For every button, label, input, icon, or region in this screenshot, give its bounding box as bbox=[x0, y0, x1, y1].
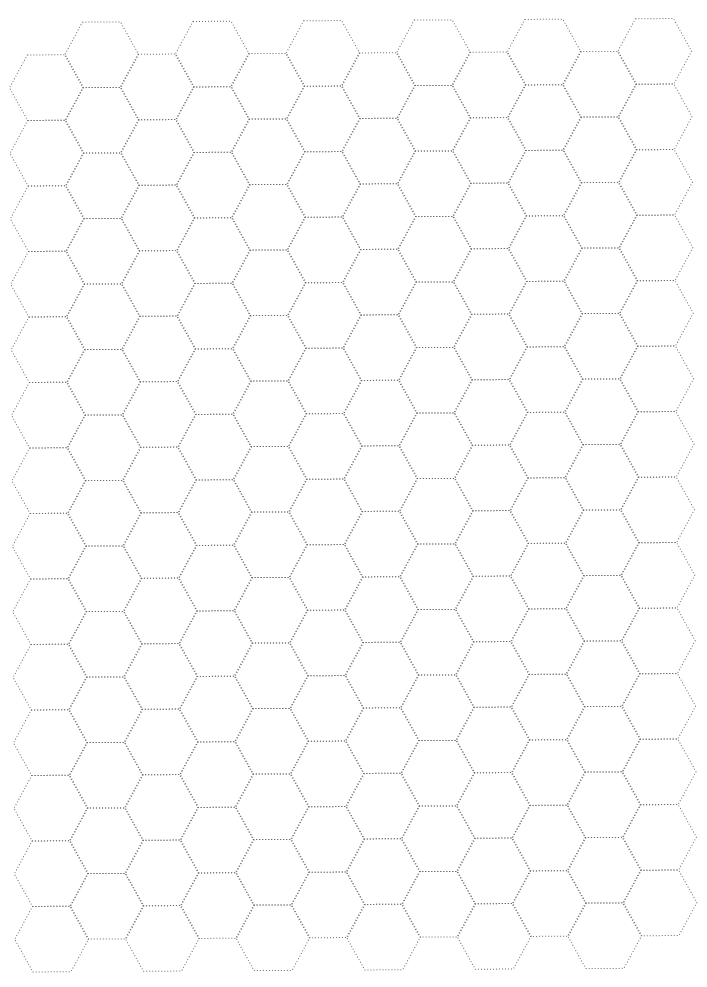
hex-cell bbox=[235, 774, 309, 840]
hex-cell bbox=[176, 218, 250, 284]
hex-cell bbox=[509, 347, 583, 413]
hex-cell bbox=[512, 805, 586, 871]
hex-cell bbox=[346, 773, 420, 839]
hex-cell bbox=[234, 643, 308, 709]
hex-cell bbox=[287, 282, 361, 348]
hex-cell bbox=[177, 414, 251, 480]
hex-cell bbox=[344, 577, 418, 643]
hex-cell bbox=[288, 348, 362, 414]
hex-cell bbox=[508, 281, 582, 347]
hex-cell bbox=[286, 151, 360, 217]
hex-cell bbox=[397, 216, 471, 282]
hex-cell bbox=[341, 53, 415, 119]
hex-cell bbox=[453, 183, 527, 249]
hex-cell bbox=[236, 905, 310, 971]
hex-cell bbox=[12, 448, 86, 514]
hex-cell bbox=[290, 741, 364, 807]
hex-cell bbox=[123, 578, 197, 644]
hex-cell bbox=[621, 608, 695, 674]
hex-cell bbox=[618, 149, 692, 215]
hex-cell bbox=[124, 774, 198, 840]
hex-cell bbox=[508, 150, 582, 216]
hex-cell bbox=[65, 153, 139, 219]
hex-cell bbox=[510, 543, 584, 609]
hex-cell bbox=[122, 316, 196, 382]
hex-cell bbox=[124, 709, 198, 775]
hex-cell bbox=[122, 381, 196, 447]
hex-cell bbox=[455, 576, 529, 642]
hex-cell bbox=[568, 903, 642, 969]
hex-cell bbox=[13, 579, 87, 645]
hex-cell bbox=[125, 840, 199, 906]
hex-cell bbox=[176, 152, 250, 218]
hex-cell bbox=[289, 610, 363, 676]
hex-cell bbox=[622, 804, 696, 870]
hex-cell bbox=[68, 546, 142, 612]
hex-cell bbox=[123, 512, 197, 578]
hex-cell bbox=[235, 708, 309, 774]
hex-cell bbox=[178, 545, 252, 611]
hex-cell bbox=[457, 838, 531, 904]
hex-cell bbox=[120, 119, 194, 185]
hex-cell bbox=[621, 673, 695, 739]
hex-cell bbox=[286, 20, 360, 86]
hex-cell bbox=[563, 117, 637, 183]
hex-cell bbox=[11, 317, 85, 383]
hex-cell bbox=[396, 20, 470, 86]
hex-cell bbox=[342, 184, 416, 250]
hex-cell bbox=[455, 510, 529, 576]
hex-cell bbox=[507, 85, 581, 151]
hex-cell bbox=[233, 512, 307, 578]
hex-cell bbox=[344, 446, 418, 512]
hex-cell bbox=[623, 870, 697, 936]
hex-cell bbox=[175, 21, 249, 87]
hex-cell bbox=[452, 117, 526, 183]
hex-cell bbox=[399, 478, 473, 544]
hex-cell bbox=[399, 544, 473, 610]
hex-cell bbox=[345, 708, 419, 774]
hex-cell bbox=[566, 575, 640, 641]
hex-cell bbox=[507, 19, 581, 85]
hex-cell bbox=[15, 906, 89, 972]
hex-cell bbox=[508, 216, 582, 282]
hex-cell bbox=[344, 511, 418, 577]
hex-cell bbox=[121, 185, 195, 251]
hex-cell bbox=[567, 837, 641, 903]
hex-cell bbox=[346, 904, 420, 970]
hex-cells bbox=[9, 18, 697, 972]
hex-cell bbox=[233, 381, 307, 447]
hex-cell bbox=[345, 642, 419, 708]
hex-cell bbox=[564, 313, 638, 379]
hex-cell bbox=[180, 873, 254, 939]
hex-cell bbox=[455, 641, 529, 707]
hex-cell bbox=[179, 742, 253, 808]
hex-cell bbox=[454, 379, 528, 445]
hex-cell bbox=[177, 349, 251, 415]
hex-cell bbox=[287, 217, 361, 283]
hex-cell bbox=[564, 379, 638, 445]
hex-cell bbox=[69, 808, 143, 874]
hex-cell bbox=[10, 120, 84, 186]
hex-cell bbox=[67, 480, 141, 546]
hex-cell bbox=[562, 51, 636, 117]
hex-cell bbox=[234, 577, 308, 643]
hex-cell bbox=[565, 510, 639, 576]
hex-cell bbox=[11, 251, 85, 317]
hex-cell bbox=[620, 411, 694, 477]
hex-cell bbox=[231, 119, 305, 185]
hex-cell bbox=[125, 905, 199, 971]
hex-cell bbox=[618, 84, 692, 150]
hex-cell bbox=[343, 315, 417, 381]
hex-cell bbox=[456, 707, 530, 773]
hex-cell bbox=[291, 872, 365, 938]
hex-grid-sheet bbox=[0, 0, 707, 987]
hex-cell bbox=[68, 677, 142, 743]
hex-cell bbox=[563, 182, 637, 248]
hex-cell bbox=[69, 742, 143, 808]
hex-cell bbox=[400, 675, 474, 741]
hex-cell bbox=[453, 248, 527, 314]
hex-cell bbox=[567, 772, 641, 838]
hex-cell bbox=[175, 87, 249, 153]
hex-cell bbox=[70, 873, 144, 939]
hex-cell bbox=[619, 346, 693, 412]
